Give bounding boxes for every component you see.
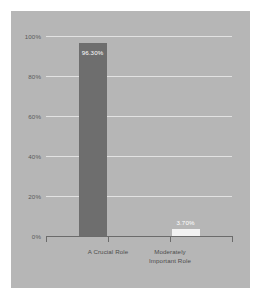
bar-chart: 100% 80% 60% 40% 20% 0% 96.30% 3.70% A C… [0, 0, 261, 299]
ytick-label-20: 20% [28, 193, 41, 200]
gridline-80: 80% [46, 76, 232, 77]
bar-a-crucial-role[interactable]: 96.30% [79, 43, 107, 236]
ytick-label-40: 40% [28, 153, 41, 160]
gridline-100: 100% [46, 36, 232, 37]
axis-tick-left [46, 236, 47, 242]
axis-tick-category-0 [108, 236, 109, 242]
ytick-label-0: 0% [32, 233, 41, 240]
category-label-moderately-important-role: Moderately Important Role [135, 247, 205, 265]
bar-value-label-0: 96.30% [82, 49, 104, 56]
ytick-label-80: 80% [28, 73, 41, 80]
gridline-40: 40% [46, 156, 232, 157]
ytick-label-100: 100% [25, 33, 41, 40]
axis-tick-right [232, 236, 233, 242]
ytick-label-60: 60% [28, 113, 41, 120]
gridline-20: 20% [46, 196, 232, 197]
x-axis-line [46, 236, 232, 237]
axis-tick-category-1 [170, 236, 171, 242]
plot-area: 100% 80% 60% 40% 20% 0% 96.30% 3.70% [46, 36, 232, 236]
bar-moderately-important-role[interactable]: 3.70% [172, 229, 200, 236]
bar-value-label-1: 3.70% [176, 219, 194, 226]
gridline-60: 60% [46, 116, 232, 117]
category-label-a-crucial-role: A Crucial Role [73, 247, 143, 256]
